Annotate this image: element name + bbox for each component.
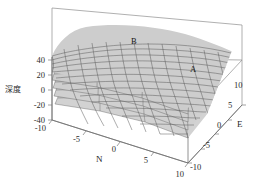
y-tick-label-0: 0 [217,120,221,130]
z-tick-label-20: 20 [37,70,46,80]
surface-annotation-b: B [131,36,137,46]
z-axis-title: 深度 [5,84,21,94]
x-axis-title: N [96,154,103,164]
z-axis-group: 40 20 0 -20 -40 深度 [5,55,52,125]
y-tick-label-neg10: -10 [190,162,201,172]
surface-annotation-a: A [190,64,197,74]
surface-mesh-group [52,25,243,138]
x-tick-label-10: 10 [176,169,185,179]
y-tick-label-10: 10 [234,80,243,90]
z-tick-label-neg20: -20 [34,100,45,110]
y-tick-label-5: 5 [228,100,232,110]
y-tick-label-neg5: -5 [203,140,210,150]
z-tick-marks [48,60,52,120]
z-tick-label-0: 0 [41,85,45,95]
surface-plot-figure: 40 20 0 -20 -40 深度 -10 -5 0 5 10 N [0,0,261,188]
x-tick-label-5: 5 [144,155,148,165]
x-tick-label-neg10: -10 [35,123,46,133]
x-tick-label-0: 0 [112,144,116,154]
z-tick-label-40: 40 [37,55,46,65]
x-tick-label-neg5: -5 [73,134,80,144]
plot-canvas: 40 20 0 -20 -40 深度 -10 -5 0 5 10 N [0,0,261,188]
y-axis-title: E [237,119,243,129]
